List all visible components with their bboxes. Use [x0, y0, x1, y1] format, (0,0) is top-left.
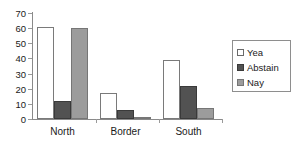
bar-south-yea	[163, 60, 180, 119]
legend-label-nay: Nay	[247, 78, 264, 88]
x-axis-label-border: Border	[110, 126, 140, 137]
y-axis-tick	[28, 13, 32, 14]
y-axis-label: 10	[0, 98, 26, 109]
y-axis-label: 60	[0, 23, 26, 34]
y-axis-tick	[28, 58, 32, 59]
x-axis-label-north: North	[50, 126, 74, 137]
bar-north-abstain	[54, 101, 71, 119]
legend-swatch-yea	[237, 49, 244, 56]
y-axis-tick	[28, 104, 32, 105]
x-axis-tick	[222, 119, 223, 123]
y-axis-label: 70	[0, 8, 26, 19]
x-axis-line	[32, 119, 223, 120]
y-axis-label: 0	[0, 114, 26, 125]
bar-north-nay	[71, 28, 88, 119]
y-axis-tick	[28, 119, 32, 120]
x-axis-label-south: South	[175, 126, 201, 137]
bar-north-yea	[37, 27, 54, 119]
bar-south-abstain	[180, 86, 197, 119]
y-axis-tick	[28, 89, 32, 90]
bar-border-abstain	[117, 110, 134, 119]
legend-swatch-abstain	[237, 64, 244, 71]
x-axis-tick	[96, 119, 97, 123]
bar-border-yea	[100, 93, 117, 119]
legend-item-nay: Nay	[237, 75, 287, 90]
y-axis-label: 30	[0, 68, 26, 79]
y-axis-label: 20	[0, 83, 26, 94]
legend-item-yea: Yea	[237, 45, 287, 60]
chart-legend: Yea Abstain Nay	[232, 40, 291, 92]
x-axis-tick	[159, 119, 160, 123]
bar-chart: 010203040506070 NorthBorderSouth Yea Abs…	[0, 0, 294, 148]
y-axis-label: 40	[0, 53, 26, 64]
legend-label-yea: Yea	[247, 48, 263, 58]
legend-swatch-nay	[237, 79, 244, 86]
plot-area	[33, 13, 222, 119]
y-axis-tick	[28, 74, 32, 75]
y-axis-label: 50	[0, 38, 26, 49]
y-axis-tick	[28, 43, 32, 44]
legend-item-abstain: Abstain	[237, 60, 287, 75]
bar-border-nay	[134, 117, 151, 119]
legend-label-abstain: Abstain	[247, 63, 279, 73]
y-axis-tick	[28, 28, 32, 29]
bar-south-nay	[197, 108, 214, 119]
